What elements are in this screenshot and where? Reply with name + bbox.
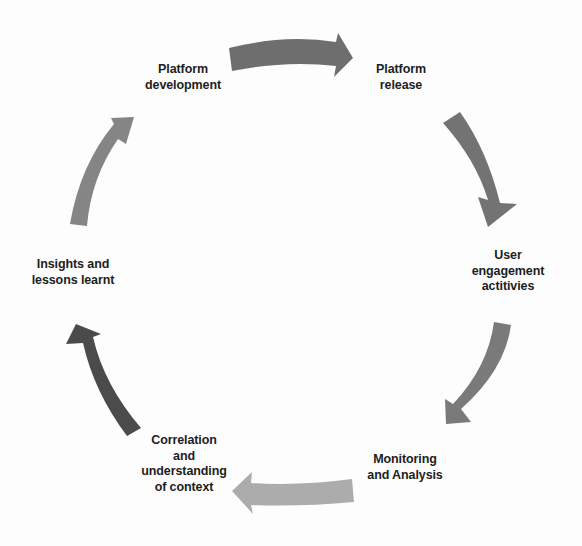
node-platform-release: Platform release — [376, 62, 426, 93]
node-line: actitivies — [472, 279, 545, 295]
node-line: Platform — [376, 62, 426, 78]
node-line: engagement — [472, 264, 545, 280]
node-monitoring-analysis: Monitoring and Analysis — [367, 452, 442, 483]
arrow-monitoring-to-correlation — [232, 472, 354, 514]
node-insights-lessons: Insights and lessons learnt — [32, 257, 115, 288]
node-line: User — [472, 248, 545, 264]
node-line: Insights and — [32, 257, 115, 273]
node-line: and Analysis — [367, 468, 442, 484]
node-line: Correlation — [141, 433, 227, 449]
node-line: lessons learnt — [32, 273, 115, 289]
node-line: of context — [141, 480, 227, 496]
node-line: and — [141, 449, 227, 465]
arrow-correlation-to-insights — [66, 324, 141, 436]
arrow-development-to-release — [229, 33, 353, 77]
node-line: Platform — [145, 62, 221, 78]
node-line: Monitoring — [367, 452, 442, 468]
node-platform-development: Platform development — [145, 62, 221, 93]
node-user-engagement: User engagement actitivies — [472, 248, 545, 295]
cycle-diagram: Platform development Platform release Us… — [0, 0, 582, 546]
arrow-insights-to-development — [70, 117, 134, 226]
node-line: release — [376, 78, 426, 94]
node-line: development — [145, 78, 221, 94]
arrow-engagement-to-monitoring — [445, 322, 511, 424]
node-correlation-context: Correlation and understanding of context — [141, 433, 227, 495]
arrow-release-to-engagement — [443, 112, 517, 227]
node-line: understanding — [141, 464, 227, 480]
